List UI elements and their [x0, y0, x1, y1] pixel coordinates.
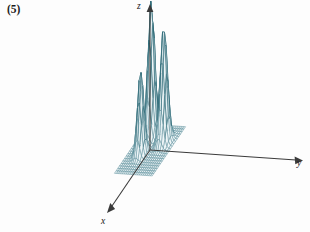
surface-plot-svg	[0, 0, 310, 232]
figure-container: (5) z y x	[0, 0, 310, 232]
axis-arrow-x	[107, 203, 115, 213]
axis-label-x: x	[101, 216, 105, 226]
axis-label-z: z	[137, 1, 141, 11]
axis-line-y	[150, 150, 296, 160]
axis-label-y: y	[297, 158, 301, 168]
axis-arrow-z	[147, 4, 154, 12]
axis-group	[107, 4, 303, 213]
